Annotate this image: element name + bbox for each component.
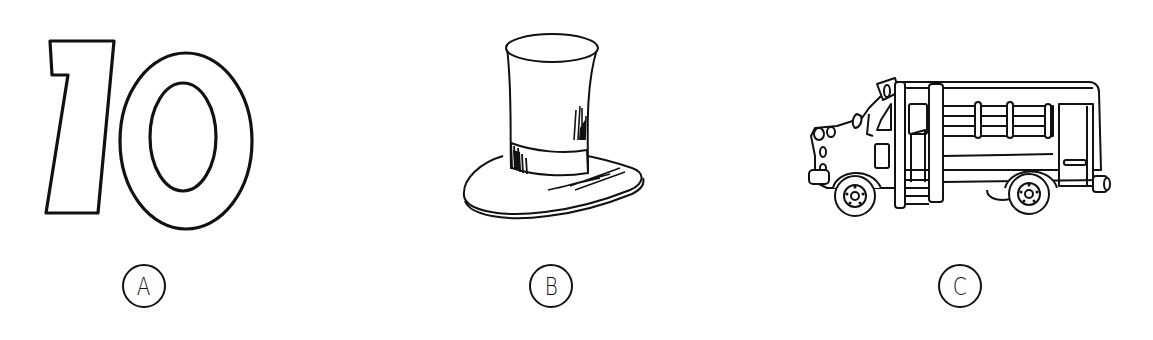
option-a-label[interactable]: A [122, 264, 166, 308]
option-b[interactable]: B [400, 0, 720, 340]
option-a[interactable]: A [0, 0, 300, 340]
option-b-label[interactable]: B [529, 264, 573, 308]
school-bus-icon [807, 70, 1107, 220]
number-ten-illustration [40, 35, 260, 220]
number-ten-icon [40, 35, 260, 220]
top-hat-icon [460, 28, 645, 218]
school-bus-illustration [807, 70, 1107, 220]
option-a-letter: A [137, 274, 151, 299]
option-b-letter: B [544, 274, 557, 299]
option-c[interactable]: C [780, 0, 1153, 340]
top-hat-illustration [460, 28, 645, 218]
option-c-label[interactable]: C [938, 264, 982, 308]
option-c-letter: C [953, 274, 967, 299]
